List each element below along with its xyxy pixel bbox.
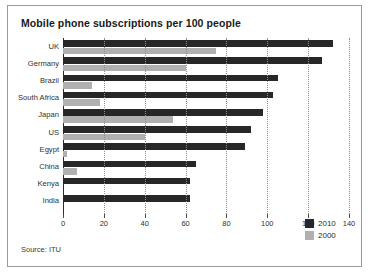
category-label: US [48, 128, 59, 137]
bar-2000 [63, 65, 186, 72]
legend-item: 2010 [305, 219, 357, 228]
gridline-80 [226, 38, 227, 214]
legend-label: 2000 [318, 231, 336, 240]
x-tick-label: 40 [141, 219, 149, 228]
bar-2010 [63, 75, 278, 82]
bar-2000 [63, 116, 173, 123]
chart-legend: 20102000 [305, 219, 357, 243]
x-tick-label: 0 [61, 219, 65, 228]
bar-2000 [63, 99, 100, 106]
legend-label: 2010 [318, 219, 336, 228]
category-label: Brazil [40, 76, 59, 85]
bar-2010 [63, 161, 196, 168]
category-label: Egypt [40, 145, 59, 154]
tick-mark-140 [349, 214, 350, 218]
chart-title: Mobile phone subscriptions per 100 peopl… [21, 17, 241, 29]
category-label: Kenya [37, 179, 59, 188]
tick-mark-20 [104, 214, 105, 218]
plot-area [63, 38, 349, 210]
bar-2010 [63, 178, 190, 185]
category-label: China [39, 162, 59, 171]
gridline-40 [145, 38, 146, 214]
category-label: UK [48, 42, 59, 51]
category-label: India [43, 196, 59, 205]
gridline-60 [186, 38, 187, 214]
gridline-140 [349, 38, 350, 214]
bar-2010 [63, 195, 190, 202]
tick-mark-100 [267, 214, 268, 218]
tick-mark-0 [63, 214, 64, 218]
tick-mark-60 [186, 214, 187, 218]
category-label: Japan [38, 110, 59, 119]
bar-2010 [63, 109, 263, 116]
tick-mark-120 [308, 214, 309, 218]
x-tick-label: 60 [181, 219, 189, 228]
tick-mark-40 [145, 214, 146, 218]
tick-mark-80 [226, 214, 227, 218]
gridline-120 [308, 38, 309, 214]
source-note: Source: ITU [21, 245, 61, 254]
legend-swatch-icon [305, 231, 314, 240]
bar-2010 [63, 92, 273, 99]
x-tick-label: 80 [222, 219, 230, 228]
chart-figure: Mobile phone subscriptions per 100 peopl… [7, 5, 362, 267]
legend-item: 2000 [305, 231, 357, 240]
bar-2010 [63, 143, 245, 150]
bar-2000 [63, 151, 67, 158]
category-axis: UKGermanyBrazilSouth AfricaJapanUSEgyptC… [8, 38, 59, 210]
gridline-20 [104, 38, 105, 214]
x-tick-label: 20 [100, 219, 108, 228]
plot-wrapper: UKGermanyBrazilSouth AfricaJapanUSEgyptC… [8, 36, 361, 231]
bar-2000 [63, 168, 77, 175]
gridline-100 [267, 38, 268, 214]
x-tick-label: 100 [261, 219, 274, 228]
legend-swatch-icon [305, 219, 314, 228]
bar-2010 [63, 126, 251, 133]
bar-2000 [63, 82, 92, 89]
category-label: South Africa [18, 93, 59, 102]
bar-2010 [63, 57, 322, 64]
category-label: Germany [28, 59, 59, 68]
bar-2000 [63, 48, 216, 55]
